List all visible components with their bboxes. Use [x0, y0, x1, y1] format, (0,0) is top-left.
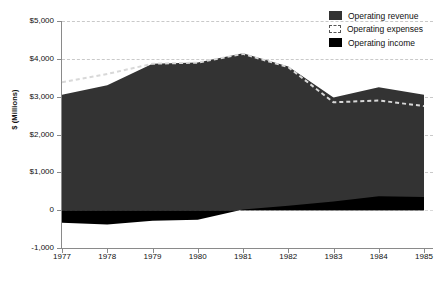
x-tick-mark: [107, 249, 108, 253]
x-tick-mark: [379, 249, 380, 253]
y-tick-label: $2,000: [0, 130, 54, 139]
x-tick-mark: [62, 249, 63, 253]
chart-container: $ (Millions) $5,000$4,000$3,000$2,000$1,…: [0, 0, 443, 281]
x-tick-label: 1979: [133, 252, 173, 261]
y-tick-label: -1,000: [0, 243, 54, 252]
x-tick-label: 1984: [359, 252, 399, 261]
y-tick-mark: [57, 21, 61, 22]
x-tick-label: 1980: [178, 252, 218, 261]
x-tick-label: 1977: [42, 252, 82, 261]
legend-item[interactable]: Operating expenses: [329, 23, 441, 37]
y-tick-mark: [57, 172, 61, 173]
x-tick-mark: [243, 249, 244, 253]
series-layer: [62, 21, 433, 248]
income-swatch: [329, 38, 342, 47]
legend-item[interactable]: Operating income: [329, 36, 441, 50]
y-tick-label: $1,000: [0, 167, 54, 176]
legend-item[interactable]: Operating revenue: [329, 9, 441, 23]
x-tick-mark: [198, 249, 199, 253]
y-tick-mark: [57, 59, 61, 60]
x-axis-line: [61, 248, 433, 249]
y-tick-mark: [57, 97, 61, 98]
plot-area: [62, 21, 433, 248]
legend-item-label: Operating expenses: [347, 24, 423, 34]
x-tick-label: 1978: [87, 252, 127, 261]
x-tick-mark: [153, 249, 154, 253]
x-tick-label: 1983: [314, 252, 354, 261]
y-tick-label: $4,000: [0, 54, 54, 63]
x-tick-mark: [334, 249, 335, 253]
expenses-swatch: [329, 25, 341, 33]
x-tick-mark: [288, 249, 289, 253]
x-tick-mark: [424, 249, 425, 253]
y-tick-label: $5,000: [0, 16, 54, 25]
revenue-swatch: [329, 11, 342, 20]
y-tick-mark: [57, 135, 61, 136]
legend-item-label: Operating revenue: [348, 11, 418, 21]
y-tick-mark: [57, 248, 61, 249]
y-tick-label: 0: [0, 205, 54, 214]
x-tick-label: 1982: [268, 252, 308, 261]
x-tick-label: 1985: [404, 252, 443, 261]
y-tick-mark: [57, 210, 61, 211]
legend-item-label: Operating income: [348, 38, 415, 48]
series-operating-revenue: [62, 53, 424, 210]
x-tick-label: 1981: [223, 252, 263, 261]
chart-legend: Operating revenueOperating expensesOpera…: [329, 9, 441, 50]
y-tick-label: $3,000: [0, 92, 54, 101]
